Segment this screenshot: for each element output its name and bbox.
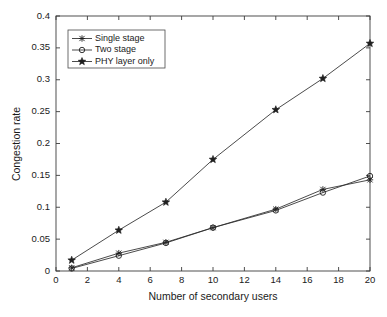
x-tick-label: 20: [365, 274, 376, 285]
x-tick-label: 6: [148, 274, 153, 285]
legend-label: PHY layer only: [95, 56, 155, 66]
y-tick-label: 0.2: [37, 137, 50, 148]
x-tick-label: 16: [302, 274, 313, 285]
y-axis-title: Congestion rate: [10, 107, 22, 181]
y-tick-label: 0.05: [32, 233, 51, 244]
y-tick-label: 0.15: [32, 169, 51, 180]
x-axis-title: Number of secondary users: [149, 290, 278, 302]
figure-container: 02468101214161820 00.050.10.150.20.250.3…: [0, 0, 387, 317]
congestion-rate-line-chart: 02468101214161820 00.050.10.150.20.250.3…: [0, 0, 387, 317]
legend-marker-cross-icon: [79, 35, 85, 41]
legend-label: Two stage: [95, 44, 136, 54]
x-tick-label: 4: [116, 274, 121, 285]
y-tick-label: 0.3: [37, 73, 50, 84]
x-tick-label: 2: [85, 274, 90, 285]
chart-legend: Single stageTwo stagePHY layer only: [68, 30, 165, 68]
x-tick-label: 0: [53, 274, 58, 285]
legend-label: Single stage: [95, 33, 145, 43]
y-tick-label: 0.25: [32, 105, 51, 116]
y-tick-label: 0.35: [32, 41, 51, 52]
x-tick-label: 14: [271, 274, 282, 285]
y-tick-label: 0.4: [37, 10, 50, 21]
y-tick-label: 0: [45, 265, 50, 276]
x-tick-label: 18: [333, 274, 344, 285]
x-tick-label: 8: [179, 274, 184, 285]
x-tick-label: 12: [239, 274, 250, 285]
x-tick-label: 10: [208, 274, 219, 285]
y-tick-label: 0.1: [37, 201, 50, 212]
